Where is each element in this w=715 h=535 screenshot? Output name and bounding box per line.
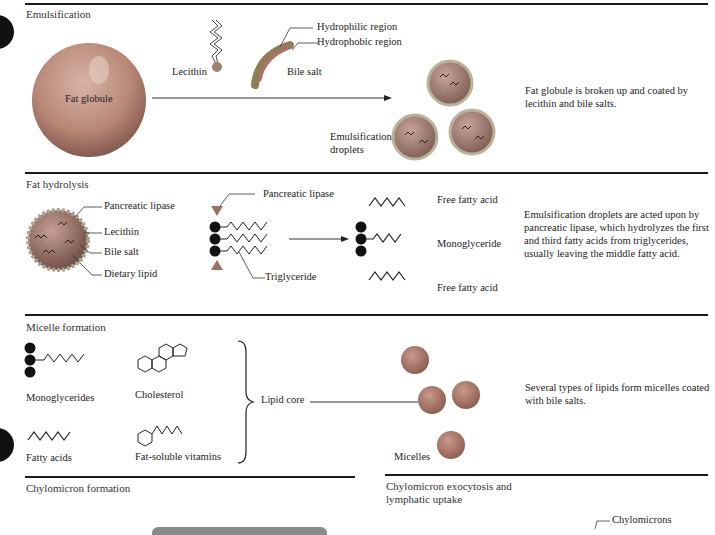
hydrophobic-leader-line [290, 40, 320, 60]
section-title-line2: lymphatic uptake [386, 493, 462, 505]
fat-soluble-vitamins-label: Fat-soluble vitamins [135, 451, 221, 462]
monoglyceride-icon [24, 340, 94, 385]
micelles-icon [395, 345, 495, 455]
section-divider [25, 314, 708, 316]
cholesterol-label: Cholesterol [135, 389, 183, 400]
bile-salt-label: Bile salt [287, 66, 322, 77]
emulsification-droplets-icon [395, 55, 525, 165]
lecithin-label: Lecithin [172, 66, 207, 77]
page-tab-marker-top [0, 15, 14, 49]
lipid-core-label: Lipid core [261, 394, 304, 405]
dietary-lipid-label: Dietary lipid [104, 268, 157, 279]
section-divider [385, 474, 708, 476]
free-fatty-acid-bottom-label: Free fatty acid [437, 282, 498, 293]
monoglycerides-label: Monoglycerides [26, 392, 94, 403]
micelle-formation-description: Several types of lipids form micelles co… [525, 381, 710, 407]
section-title: Micelle formation [26, 321, 106, 333]
emulsification-description: Fat globule is broken up and coated by l… [525, 84, 705, 110]
lecithin-icon [206, 18, 226, 78]
section-title: Fat hydrolysis [26, 178, 89, 190]
triglyceride-label: Triglyceride [265, 271, 317, 282]
fatty-acid-icon [26, 428, 76, 448]
micelles-label: Micelles [394, 451, 430, 462]
chylomicrons-leader-line [593, 518, 611, 530]
pancreatic-lipase-label: Pancreatic lipase [104, 200, 175, 211]
hydrolysis-products-icon [355, 192, 425, 282]
fat-globule-label: Fat globule [65, 93, 113, 104]
enterocyte-shape [152, 527, 327, 535]
section-divider [25, 476, 355, 478]
section-title: Chylomicron formation [26, 482, 130, 494]
fat-hydrolysis-description: Emulsification droplets are acted upon b… [524, 208, 712, 260]
section-divider [25, 3, 708, 5]
fat-soluble-vitamin-icon [135, 418, 195, 450]
brace-icon [236, 340, 256, 465]
hydrophobic-label: Hydrophobic region [317, 36, 402, 47]
arrow-right-icon [152, 93, 392, 103]
chylomicrons-label: Chylomicrons [612, 514, 672, 525]
fatty-acids-label: Fatty acids [26, 452, 72, 463]
arrow-right-icon [289, 234, 349, 244]
hydrophilic-label: Hydrophilic region [317, 21, 397, 32]
section-title-line1: Chylomicron exocytosis and [386, 480, 512, 492]
lecithin-label: Lecithin [104, 226, 139, 237]
free-fatty-acid-top-label: Free fatty acid [437, 194, 498, 205]
bile-salt-label: Bile salt [104, 246, 139, 257]
section-divider [25, 172, 708, 174]
cholesterol-icon [135, 340, 195, 380]
section-title: Emulsification [26, 8, 91, 20]
droplets-label-line1: Emulsification [330, 131, 392, 142]
pancreatic-lipase-label-2: Pancreatic lipase [263, 188, 334, 199]
droplets-label-line2: droplets [330, 144, 364, 155]
monoglyceride-label: Monoglyceride [437, 238, 501, 249]
page-tab-marker-bottom [0, 428, 14, 462]
triglyceride-icon [205, 192, 285, 282]
